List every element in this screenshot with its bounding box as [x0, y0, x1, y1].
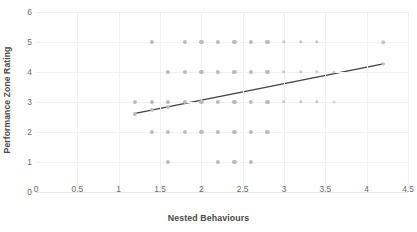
plot-area: [36, 12, 408, 192]
x-tick-label: 3: [282, 184, 287, 194]
gridline-horizontal: [36, 42, 408, 43]
x-tick-label: 0: [34, 184, 39, 194]
x-tick-label: 1.5: [154, 184, 166, 194]
data-point: [332, 71, 335, 74]
x-axis-line: [36, 192, 408, 193]
x-tick-label: 1: [116, 184, 121, 194]
x-tick-label: 4.5: [402, 184, 414, 194]
data-point: [381, 40, 385, 44]
x-tick-label: 2.5: [237, 184, 249, 194]
y-tick-label: 0: [14, 187, 32, 197]
data-point: [332, 101, 335, 104]
scatter-chart: Performance Zone Rating Nested Behaviour…: [0, 0, 417, 232]
x-tick-label: 3.5: [320, 184, 332, 194]
y-tick-label: 6: [14, 7, 32, 17]
gridline-horizontal: [36, 132, 408, 133]
x-tick-label: 4: [364, 184, 369, 194]
gridline-horizontal: [36, 12, 408, 13]
y-tick-label: 5: [14, 37, 32, 47]
y-tick-label: 4: [14, 67, 32, 77]
y-tick-label: 2: [14, 127, 32, 137]
gridline-horizontal: [36, 102, 408, 103]
x-axis-title-label: Nested Behaviours: [168, 213, 249, 223]
y-axis-title: Performance Zone Rating: [0, 0, 14, 200]
y-axis-title-label: Performance Zone Rating: [2, 47, 12, 154]
x-tick-label: 2: [199, 184, 204, 194]
x-axis-title: Nested Behaviours: [0, 213, 417, 223]
gridline-horizontal: [36, 72, 408, 73]
y-tick-label: 3: [14, 97, 32, 107]
data-point: [381, 62, 385, 66]
gridline-horizontal: [36, 162, 408, 163]
y-tick-label: 1: [14, 157, 32, 167]
x-tick-label: 0.5: [72, 184, 84, 194]
gridline-vertical: [408, 12, 409, 192]
